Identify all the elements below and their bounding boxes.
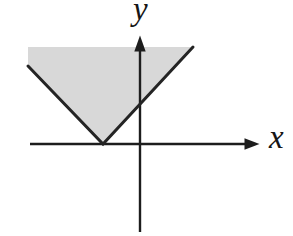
figure-canvas: x y xyxy=(0,0,293,236)
x-axis-label: x xyxy=(268,119,284,155)
coordinate-plane: x y xyxy=(0,0,293,236)
x-axis-arrowhead xyxy=(245,138,260,149)
y-axis-label: y xyxy=(130,0,148,27)
shaded-region xyxy=(28,47,193,144)
y-axis-arrowhead xyxy=(134,36,145,52)
